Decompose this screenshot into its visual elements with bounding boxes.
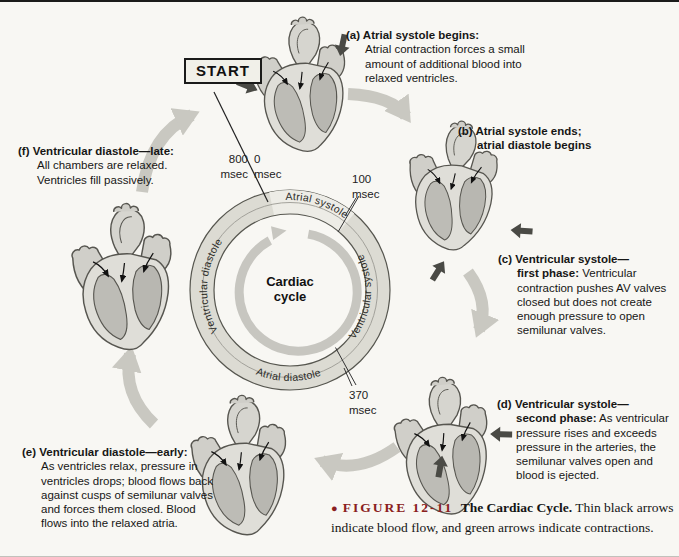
cycle-arrow-a-to-b xyxy=(348,94,406,116)
caption-figure-number: FIGURE 12-11 xyxy=(343,500,454,515)
stage-label-f: (f) Ventricular diastole—late: All chamb… xyxy=(18,144,218,187)
heart-illustration-d xyxy=(390,374,494,518)
figure-caption: ●FIGURE 12-11 The Cardiac Cycle. Thin bl… xyxy=(331,498,679,539)
start-line-divider-0msec xyxy=(214,92,268,202)
contraction-arrow-b-right xyxy=(510,223,533,239)
time-370msec: 370 msec xyxy=(349,388,376,418)
figure-12-11-cardiac-cycle: Atrial systole Ventricular systole Atria… xyxy=(0,0,679,557)
contraction-arrow-b-bottom xyxy=(426,257,450,284)
caption-title: The Cardiac Cycle. xyxy=(461,500,572,515)
cycle-center-label: Cardiac cycle xyxy=(248,275,332,305)
start-label: START xyxy=(184,58,262,84)
heart-illustration-a xyxy=(251,15,349,154)
cycle-arrow-b-to-d xyxy=(468,272,483,330)
cycle-arrow-e-to-f xyxy=(128,354,154,424)
caption-bullet-icon: ● xyxy=(331,502,338,514)
stage-label-e: (e) Ventricular diastole—early: As ventr… xyxy=(22,445,217,531)
heart-illustration-f xyxy=(70,202,174,351)
stage-label-c: (c) Ventricular systole— first phase: Ve… xyxy=(498,252,678,338)
cycle-arrow-d-to-e xyxy=(322,447,397,466)
time-0msec: 0 msec xyxy=(254,152,281,182)
stage-label-b: (b) Atrial systole ends; atrial diastole… xyxy=(458,124,678,153)
time-100msec: 100 msec xyxy=(352,172,379,202)
stage-label-a: (a) Atrial systole begins: Atrial contra… xyxy=(346,28,531,85)
stage-label-d: (d) Ventricular systole— second phase: A… xyxy=(497,397,679,483)
